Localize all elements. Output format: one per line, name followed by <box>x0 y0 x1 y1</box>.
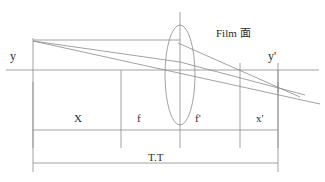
segment-label-focal-front: f <box>137 113 141 124</box>
optics-ray-diagram: y y' Film 面 X f f' x' T.T <box>0 0 325 182</box>
segment-label-focal-back: f' <box>195 113 201 124</box>
film-plane-label: Film 面 <box>216 28 251 39</box>
ray-chief <box>33 41 320 104</box>
ray-marginal-upper-out <box>180 62 305 95</box>
ray-marginal-upper <box>33 41 180 62</box>
object-height-label: y <box>10 50 16 62</box>
total-track-label: T.T <box>148 152 163 163</box>
segment-label-image-distance: x' <box>256 113 263 124</box>
segment-label-object-distance: X <box>74 113 82 124</box>
image-height-label: y' <box>268 50 276 62</box>
